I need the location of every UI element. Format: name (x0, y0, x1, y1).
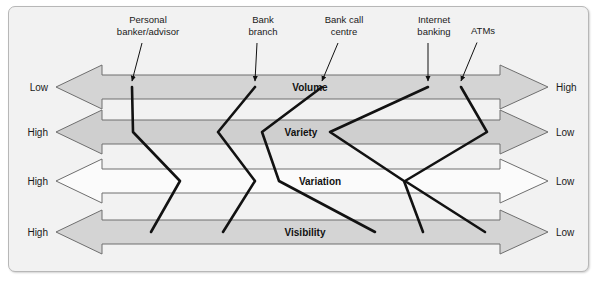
service-label-3: Internetbanking (417, 14, 450, 37)
service-label-1: Bankbranch (248, 14, 277, 37)
service-label-line: banker/advisor (117, 26, 179, 38)
profile-line (262, 87, 375, 232)
service-label-line: Internet (417, 14, 450, 26)
profile-line (218, 87, 255, 232)
service-label-line: Personal (117, 14, 179, 26)
left-scale-label-variety: High (27, 127, 48, 138)
right-scale-label-volume: High (556, 82, 577, 93)
right-scale-label-variety: Low (556, 127, 574, 138)
dimension-label-visibility: Visibility (285, 227, 326, 238)
diagram-graphics (0, 0, 605, 287)
left-scale-label-variation: High (27, 176, 48, 187)
diagram-canvas: Personalbanker/advisorBankbranchBank cal… (0, 0, 605, 287)
dimension-label-volume: Volume (292, 82, 327, 93)
service-profile-lines (132, 87, 487, 232)
right-scale-label-visibility: Low (556, 227, 574, 238)
service-label-line: centre (325, 26, 364, 38)
dimension-label-variety: Variety (285, 127, 318, 138)
service-label-2: Bank callcentre (325, 14, 364, 37)
service-label-line: banking (417, 26, 450, 38)
service-label-line: ATMs (471, 25, 495, 37)
dimension-label-variation: Variation (299, 176, 341, 187)
left-scale-label-volume: Low (30, 82, 48, 93)
service-label-4: ATMs (471, 25, 495, 37)
service-label-0: Personalbanker/advisor (117, 14, 179, 37)
service-label-line: branch (248, 26, 277, 38)
profile-line (132, 87, 180, 232)
right-scale-label-variation: Low (556, 176, 574, 187)
profile-line (405, 87, 487, 232)
service-label-line: Bank (248, 14, 277, 26)
service-label-line: Bank call (325, 14, 364, 26)
profile-line (330, 87, 428, 232)
left-scale-label-visibility: High (27, 227, 48, 238)
